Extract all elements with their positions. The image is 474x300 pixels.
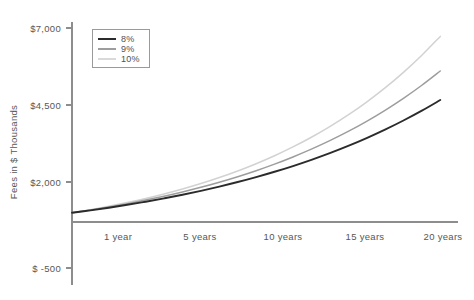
y-tick-label-minus-500: $ -500 — [32, 263, 61, 274]
legend-label-10-percent: 10% — [121, 54, 140, 64]
x-tick-label-1-year: 1 year — [104, 231, 132, 242]
y-tick-label-7000: $7,000 — [30, 23, 61, 34]
y-axis-title: Fees in $ Thousands — [8, 105, 19, 199]
x-tick-label-15-years: 15 years — [346, 231, 385, 242]
x-tick-label-5-years: 5 years — [183, 231, 216, 242]
legend-label-9-percent: 9% — [121, 44, 134, 54]
x-tick-label-10-years: 10 years — [264, 231, 303, 242]
legend: 8% 9% 10% — [92, 30, 149, 68]
x-tick-label-20-years: 20 years — [424, 231, 463, 242]
y-tick-label-4500: $4,500 — [30, 100, 61, 111]
chart-container: $7,000 $4,500 $2,000 $ -500 Fees in $ Th… — [0, 0, 474, 300]
y-tick-label-2000: $2,000 — [30, 177, 61, 188]
legend-label-8-percent: 8% — [121, 34, 134, 44]
series-line-8-percent — [72, 100, 440, 213]
y-axis-ticks — [66, 28, 72, 268]
series-line-9-percent — [72, 71, 440, 213]
line-chart: $7,000 $4,500 $2,000 $ -500 Fees in $ Th… — [0, 0, 474, 300]
